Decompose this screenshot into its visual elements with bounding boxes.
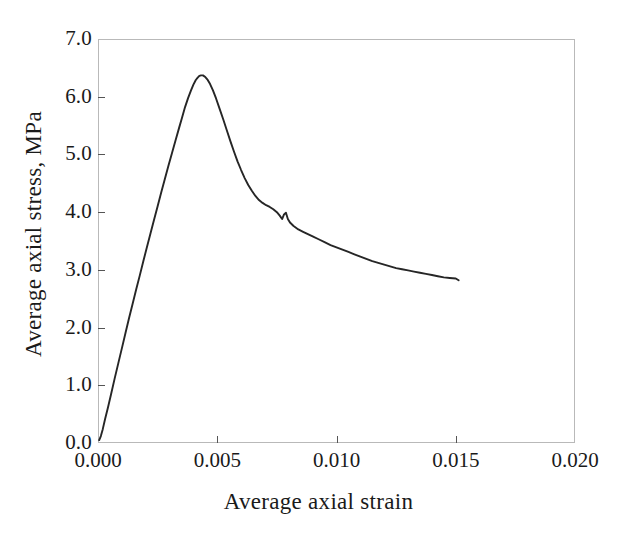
- x-tick-label: 0.015: [432, 449, 479, 472]
- y-tick-mark: [98, 97, 105, 98]
- stress-strain-chart: 0.01.02.03.04.05.06.07.0 0.0000.0050.010…: [0, 0, 637, 538]
- x-tick-label: 0.020: [551, 449, 598, 472]
- y-axis-title: Average axial stress, MPa: [21, 32, 47, 436]
- stress-strain-curve: [98, 39, 575, 443]
- x-axis-title: Average axial strain: [0, 489, 637, 515]
- y-tick-mark: [98, 328, 105, 329]
- x-tick-mark: [337, 436, 338, 443]
- y-tick-mark: [98, 270, 105, 271]
- y-tick-mark: [98, 154, 105, 155]
- x-tick-mark: [217, 436, 218, 443]
- y-tick-mark: [98, 385, 105, 386]
- x-tick-label: 0.005: [194, 449, 241, 472]
- x-tick-label: 0.000: [74, 449, 121, 472]
- series-line: [99, 75, 458, 440]
- y-tick-mark: [98, 212, 105, 213]
- x-tick-label: 0.010: [313, 449, 360, 472]
- x-tick-mark: [456, 436, 457, 443]
- x-axis-tick-labels: 0.0000.0050.0100.0150.020: [0, 449, 637, 479]
